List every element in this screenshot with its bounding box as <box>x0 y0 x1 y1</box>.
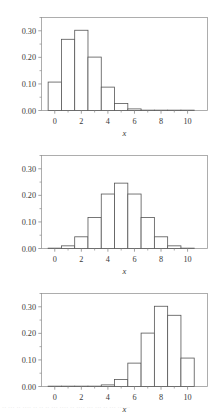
x-tick-label: 10 <box>183 393 191 402</box>
y-tick-label: 0.00 <box>22 107 36 116</box>
x-tick-label: 4 <box>106 393 110 402</box>
x-tick-label: 0 <box>53 255 57 264</box>
histogram-bar <box>141 217 154 248</box>
y-tick-label: 0.00 <box>22 245 36 254</box>
y-tick-label: 0.20 <box>22 329 36 338</box>
histogram-bar <box>128 194 141 248</box>
x-tick-label: 8 <box>159 255 163 264</box>
histogram-bar <box>154 306 167 386</box>
histogram-bar <box>115 380 128 387</box>
histogram-bar <box>48 82 61 110</box>
x-tick-label: 4 <box>106 255 110 264</box>
histogram-bar <box>88 217 101 248</box>
x-tick-label: 2 <box>79 393 83 402</box>
histogram-bar <box>101 194 114 248</box>
x-tick-label: 6 <box>132 255 136 264</box>
x-tick-label: 6 <box>132 393 136 402</box>
histogram-panel-3: 02468100.000.100.200.30x <box>0 276 219 414</box>
histogram-bar <box>61 246 74 249</box>
histogram-bar <box>168 246 181 249</box>
x-tick-label: 8 <box>159 393 163 402</box>
histogram-bar <box>128 363 141 386</box>
histogram-bar <box>61 39 74 110</box>
histogram-bar <box>101 385 114 387</box>
x-tick-label: 0 <box>53 117 57 126</box>
y-tick-label: 0.30 <box>22 303 36 312</box>
histogram-bar <box>115 104 128 111</box>
y-tick-label: 0.30 <box>22 165 36 174</box>
histogram-bar <box>141 333 154 386</box>
x-tick-label: 2 <box>79 255 83 264</box>
histogram-bar <box>154 237 167 249</box>
histogram-bar <box>181 358 194 386</box>
y-tick-label: 0.00 <box>22 383 36 392</box>
bottom-caption-text: ·· ··· ·· ···· ·· ·· ·· ··· ···· ·· ····… <box>0 404 219 412</box>
x-tick-label: 8 <box>159 117 163 126</box>
histogram-panel-2: 02468100.000.100.200.30x <box>0 138 219 276</box>
x-tick-label: 6 <box>132 117 136 126</box>
histogram-figure: 02468100.000.100.200.30x 02468100.000.10… <box>0 0 219 416</box>
y-tick-label: 0.10 <box>22 356 36 365</box>
x-axis-title: x <box>122 266 127 276</box>
y-tick-label: 0.20 <box>22 191 36 200</box>
histogram-bar <box>75 30 88 110</box>
bar-series <box>48 30 194 110</box>
y-tick-label: 0.20 <box>22 53 36 62</box>
x-tick-label: 10 <box>183 255 191 264</box>
x-tick-label: 10 <box>183 117 191 126</box>
y-tick-label: 0.30 <box>22 27 36 36</box>
x-tick-label: 2 <box>79 117 83 126</box>
bar-series <box>48 306 194 386</box>
bottom-caption: ·· ··· ·· ···· ·· ·· ·· ··· ···· ·· ····… <box>0 404 219 416</box>
y-tick-label: 0.10 <box>22 218 36 227</box>
histogram-bar <box>88 57 101 110</box>
histogram-bar <box>101 87 114 110</box>
y-tick-label: 0.10 <box>22 80 36 89</box>
x-axis-title: x <box>122 128 127 138</box>
bar-series <box>48 183 194 248</box>
histogram-bar <box>128 109 141 111</box>
histogram-bar <box>168 315 181 386</box>
x-tick-label: 4 <box>106 117 110 126</box>
histogram-panel-1: 02468100.000.100.200.30x <box>0 0 219 138</box>
x-tick-label: 0 <box>53 393 57 402</box>
histogram-bar <box>115 183 128 248</box>
histogram-bar <box>75 237 88 249</box>
